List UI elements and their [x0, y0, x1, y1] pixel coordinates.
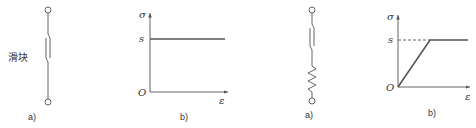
x-axis-label: ε	[219, 95, 224, 106]
caption-1a: a)	[28, 112, 36, 122]
level-label: s	[139, 33, 144, 44]
slider-element	[45, 7, 51, 105]
caption-2a: a)	[305, 110, 313, 120]
x-axis-label: ε	[465, 91, 470, 102]
top-node-icon	[309, 7, 315, 13]
chart-2b	[398, 15, 470, 87]
level-label: s	[388, 34, 393, 45]
y-axis-label: σ	[139, 9, 147, 20]
y-axis-label: σ	[387, 11, 395, 22]
origin-label: O	[386, 82, 394, 93]
top-node-icon	[45, 7, 51, 13]
origin-label: O	[138, 87, 146, 98]
bottom-node-icon	[45, 99, 51, 105]
bottom-node-icon	[309, 98, 315, 104]
stress-strain-curve	[398, 40, 468, 87]
caption-2b: b)	[428, 108, 436, 118]
spring-icon	[308, 66, 316, 92]
caption-1b: b)	[180, 112, 188, 122]
diagram-canvas: 滑块 a) σ s O ε b) a) σ s O ε b)	[0, 0, 476, 128]
slider-spring-element	[308, 7, 316, 104]
slider-label: 滑块	[8, 52, 28, 63]
chart-1b	[150, 13, 228, 92]
